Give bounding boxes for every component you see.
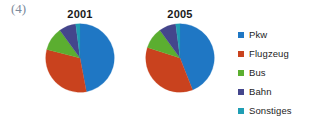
- pie-title-2005: 2005: [145, 8, 215, 20]
- pie-title-2001: 2001: [45, 8, 115, 20]
- legend-item-pkw: Pkw: [238, 26, 310, 43]
- chart-legend: Pkw Flugzeug Bus Bahn Sonstiges: [238, 26, 310, 121]
- pie-slice: [80, 24, 114, 92]
- figure-container: (4) 2001 2005 Pkw Flugzeug Bus Bahn Sons…: [0, 0, 310, 122]
- legend-label: Sonstiges: [249, 106, 292, 116]
- legend-label: Flugzeug: [249, 49, 289, 59]
- legend-swatch-icon: [238, 108, 244, 114]
- pie-canvas-2005: [145, 23, 215, 93]
- legend-label: Pkw: [249, 30, 267, 40]
- legend-swatch-icon: [238, 89, 244, 95]
- legend-swatch-icon: [238, 70, 244, 76]
- legend-item-bahn: Bahn: [238, 83, 310, 100]
- legend-item-flugzeug: Flugzeug: [238, 45, 310, 62]
- pie-chart-2005: 2005: [145, 8, 215, 93]
- figure-number-label: (4): [11, 2, 26, 16]
- pie-chart-2001: 2001: [45, 8, 115, 93]
- legend-swatch-icon: [238, 32, 244, 38]
- legend-item-sonstiges: Sonstiges: [238, 102, 310, 119]
- legend-label: Bahn: [249, 87, 272, 97]
- legend-label: Bus: [249, 68, 266, 78]
- pie-canvas-2001: [45, 23, 115, 93]
- legend-item-bus: Bus: [238, 64, 310, 81]
- legend-swatch-icon: [238, 51, 244, 57]
